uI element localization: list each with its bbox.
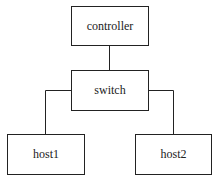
edge-switch-host2	[148, 91, 174, 136]
node-switch: switch	[71, 70, 149, 111]
node-label: switch	[94, 83, 125, 98]
node-host2: host2	[135, 134, 212, 175]
node-label: host1	[33, 147, 59, 162]
node-label: host2	[160, 147, 186, 162]
topology-diagram: controller switch host1 host2	[0, 0, 217, 181]
node-host1: host1	[7, 134, 85, 175]
node-label: controller	[87, 19, 134, 34]
edge-switch-host1	[46, 91, 72, 136]
node-controller: controller	[71, 6, 149, 46]
